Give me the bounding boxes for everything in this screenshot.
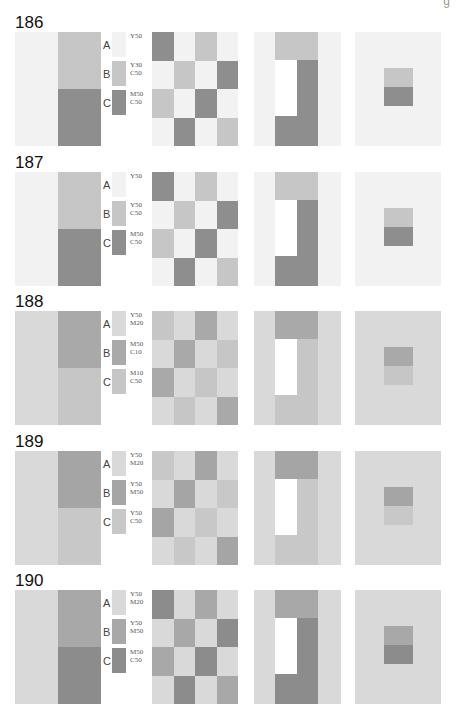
checker-cell-a xyxy=(217,172,239,201)
bracket-middle xyxy=(297,339,318,395)
checker-cell-b xyxy=(152,647,174,676)
checker-cell-a xyxy=(152,480,174,509)
plate-section: 188 AY50 M20BM50 C10CM10 C50 xyxy=(0,293,458,433)
checker-cell-b xyxy=(217,118,239,147)
square-top xyxy=(384,68,413,87)
bracket-white-gap xyxy=(275,200,297,256)
legend-item-a: AY50 M20 xyxy=(101,311,151,337)
block-c xyxy=(58,508,101,565)
checker-cell-c xyxy=(174,397,196,426)
checker-cell-c xyxy=(195,508,217,537)
legend-letter: A xyxy=(103,458,110,470)
legend-swatch xyxy=(112,480,126,505)
bracket-bottom xyxy=(275,395,318,425)
bracket-top xyxy=(275,590,318,618)
plate-section: 189 AY50 M20BY50 M50CY50 C50 xyxy=(0,433,458,573)
legend-swatch xyxy=(112,619,126,644)
plate-number: 187 xyxy=(15,154,43,172)
legend-ink-code: Y50 C50 xyxy=(130,509,142,525)
checker-cell-a xyxy=(152,118,174,147)
checker-cell-a xyxy=(174,451,196,480)
plate-number: 189 xyxy=(15,433,43,451)
legend-item-b: BY50 M50 xyxy=(101,619,151,645)
checker-cell-a xyxy=(174,368,196,397)
legend-letter: C xyxy=(103,655,111,667)
block-c xyxy=(58,647,101,704)
legend-swatch xyxy=(112,509,126,534)
bracket-top xyxy=(275,32,318,60)
legend-letter: B xyxy=(103,347,110,359)
legend-item-a: AY50 xyxy=(101,172,151,198)
checker-cell-a xyxy=(217,89,239,118)
checker-cell-b xyxy=(174,480,196,509)
block-b xyxy=(58,590,101,647)
legend-swatch xyxy=(112,90,126,115)
legend-item-c: CY50 C50 xyxy=(101,509,151,535)
checkerboard-panel xyxy=(152,172,238,286)
square-bottom xyxy=(384,506,413,525)
checker-cell-a xyxy=(174,229,196,258)
legend-item-b: BM50 C10 xyxy=(101,340,151,366)
plate-number: 186 xyxy=(15,14,43,32)
legend-item-a: AY50 M20 xyxy=(101,590,151,616)
checker-cell-a xyxy=(152,201,174,230)
checker-cell-a xyxy=(174,508,196,537)
checker-cell-a xyxy=(195,258,217,287)
legend-letter: C xyxy=(103,97,111,109)
checker-cell-a xyxy=(217,229,239,258)
checker-cell-b xyxy=(195,311,217,340)
legend-item-a: AY50 M20 xyxy=(101,451,151,477)
legend-swatch xyxy=(112,201,126,226)
bracket-bottom xyxy=(275,674,318,704)
bracket-top xyxy=(275,172,318,200)
checker-cell-c xyxy=(217,201,239,230)
checker-cell-c xyxy=(174,258,196,287)
checker-cell-c xyxy=(195,368,217,397)
square-bottom xyxy=(384,645,413,664)
bracket-shape-panel xyxy=(254,311,341,425)
plate-section: 190 AY50 M20BY50 M50CM50 C50 xyxy=(0,572,458,712)
block-a xyxy=(15,172,58,286)
legend-ink-code: Y50 xyxy=(130,32,142,40)
checker-cell-a xyxy=(174,89,196,118)
legend-item-b: BY50 M50 xyxy=(101,480,151,506)
checker-cell-a xyxy=(195,118,217,147)
checker-cell-c xyxy=(152,451,174,480)
block-a xyxy=(15,451,58,565)
color-legend: AY50BY50 C50CM50 C50 xyxy=(101,172,151,286)
block-c xyxy=(58,89,101,146)
bracket-middle xyxy=(297,200,318,256)
legend-swatch xyxy=(112,311,126,336)
checker-cell-c xyxy=(217,619,239,648)
bracket-shape-panel xyxy=(254,590,341,704)
checker-cell-a xyxy=(217,32,239,61)
checker-cell-a xyxy=(195,340,217,369)
color-legend: AY50BY30 C50CM50 C50 xyxy=(101,32,151,146)
legend-swatch xyxy=(112,369,126,394)
block-b xyxy=(58,451,101,508)
checker-cell-a xyxy=(195,397,217,426)
center-square-panel xyxy=(355,172,441,286)
legend-swatch xyxy=(112,172,126,197)
legend-swatch xyxy=(112,648,126,673)
legend-ink-code: Y50 M20 xyxy=(130,311,143,327)
checker-cell-a xyxy=(217,311,239,340)
center-square-panel xyxy=(355,451,441,565)
bracket-bottom xyxy=(275,256,318,286)
color-legend: AY50 M20BY50 M50CM50 C50 xyxy=(101,590,151,704)
checker-cell-a xyxy=(195,676,217,705)
checker-cell-a xyxy=(174,172,196,201)
checker-cell-a xyxy=(174,647,196,676)
legend-letter: B xyxy=(103,208,110,220)
plate-number: 188 xyxy=(15,293,43,311)
checker-cell-c xyxy=(217,480,239,509)
bracket-middle xyxy=(297,479,318,535)
legend-ink-code: Y50 M50 xyxy=(130,619,143,635)
page-header-fragment: g xyxy=(443,0,450,8)
bracket-middle xyxy=(297,60,318,116)
legend-letter: A xyxy=(103,318,110,330)
checkerboard-panel xyxy=(152,311,238,425)
checker-cell-b xyxy=(195,32,217,61)
checker-cell-a xyxy=(195,480,217,509)
checker-cell-c xyxy=(152,32,174,61)
